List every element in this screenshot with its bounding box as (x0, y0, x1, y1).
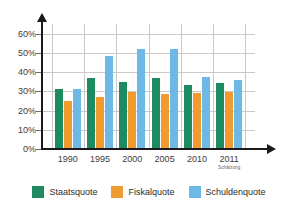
bar-group (116, 24, 148, 149)
bar-group (84, 24, 116, 149)
y-tick-label: 0% (23, 144, 36, 154)
bar-staatsquote-2011 (216, 83, 224, 149)
x-tick-label: 2011Schätzung (218, 154, 240, 170)
y-axis-line (41, 20, 43, 150)
bar-group (181, 24, 213, 149)
bar-schuldenquote-1995 (105, 56, 113, 149)
legend-swatch-icon (189, 186, 201, 198)
x-tick-label: 2000 (122, 154, 142, 164)
x-tick-label: 1995 (90, 154, 110, 164)
bar-staatsquote-2005 (152, 78, 160, 149)
bar-schuldenquote-2005 (170, 49, 178, 149)
legend-item-fiskalquote[interactable]: Fiskalquote (111, 186, 174, 198)
bar-schuldenquote-2011 (234, 80, 242, 149)
bar-group (149, 24, 181, 149)
bar-fiskalquote-2000 (128, 92, 136, 149)
y-tick-label: 40% (18, 67, 36, 77)
plot-area (42, 24, 255, 149)
bar-fiskalquote-1995 (96, 97, 104, 149)
bar-fiskalquote-1990 (64, 101, 72, 149)
bar-fiskalquote-2011 (225, 92, 233, 149)
gridline-vertical (245, 24, 246, 149)
x-tick-label: 2010 (187, 154, 207, 164)
bar-schuldenquote-2010 (202, 77, 210, 149)
legend-label: Staatsquote (49, 187, 97, 197)
chart-legend: StaatsquoteFiskalquoteSchuldenquote (0, 186, 298, 198)
y-tick-label: 20% (18, 106, 36, 116)
y-axis-tick-labels: 0%10%20%30%40%50%60% (0, 24, 36, 149)
x-tick-label: 1990 (58, 154, 78, 164)
x-axis-arrow-icon (267, 144, 276, 154)
bar-chart: 0%10%20%30%40%50%60% 1990199520002005201… (0, 0, 298, 218)
legend-label: Schuldenquote (206, 187, 266, 197)
bar-staatsquote-1995 (87, 78, 95, 149)
bar-fiskalquote-2010 (193, 93, 201, 149)
y-tick-label: 30% (18, 86, 36, 96)
x-tick-label: 2005 (155, 154, 175, 164)
bar-group (52, 24, 84, 149)
x-axis-tick-labels: 199019952000200520102011Schätzung (42, 154, 255, 184)
legend-item-staatsquote[interactable]: Staatsquote (32, 186, 97, 198)
bar-fiskalquote-2005 (161, 94, 169, 149)
y-tick-label: 60% (18, 29, 36, 39)
bar-staatsquote-2010 (184, 85, 192, 149)
bar-group (213, 24, 245, 149)
bar-schuldenquote-1990 (73, 89, 81, 149)
y-tick-label: 10% (18, 125, 36, 135)
y-axis-arrow-icon (37, 13, 47, 22)
legend-item-schuldenquote[interactable]: Schuldenquote (189, 186, 266, 198)
bar-staatsquote-1990 (55, 89, 63, 149)
bar-schuldenquote-2000 (137, 49, 145, 149)
legend-swatch-icon (111, 186, 123, 198)
x-axis-line (41, 148, 269, 150)
legend-swatch-icon (32, 186, 44, 198)
bar-staatsquote-2000 (119, 82, 127, 149)
legend-label: Fiskalquote (128, 187, 174, 197)
y-tick-label: 50% (18, 48, 36, 58)
x-tick-label-note: Schätzung (218, 165, 240, 170)
